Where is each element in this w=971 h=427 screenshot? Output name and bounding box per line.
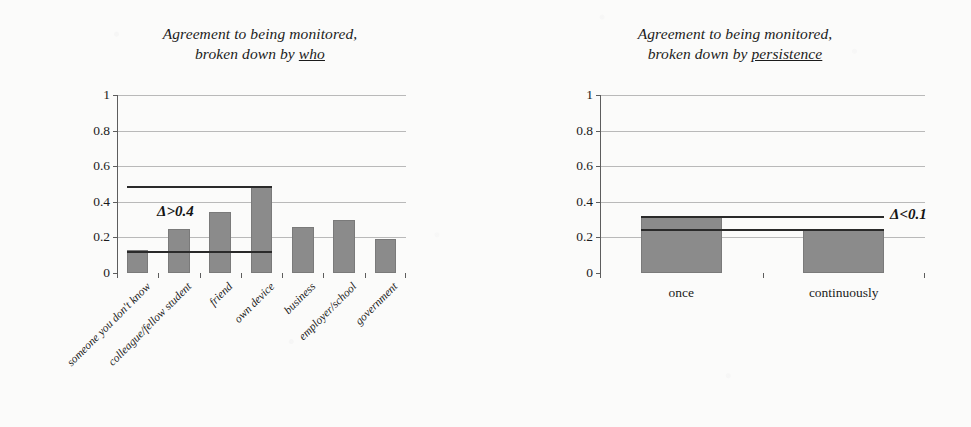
chart-title-persistence-line2-prefix: broken down by <box>648 45 752 62</box>
x-axis-category-label: continuously <box>809 285 879 301</box>
y-axis-who <box>117 95 118 274</box>
y-tick-label: 0.8 <box>576 123 593 139</box>
x-tick-mark <box>117 273 118 278</box>
bar <box>209 212 230 273</box>
y-tick-label: 0.6 <box>93 158 110 174</box>
chart-title-persistence: Agreement to being monitored, broken dow… <box>570 24 900 64</box>
delta-reference-line <box>127 251 272 253</box>
delta-reference-line <box>127 186 272 188</box>
bar <box>803 229 884 274</box>
chart-title-persistence-line2-emph: persistence <box>751 45 822 62</box>
x-axis-category-label: colleague/fellow student <box>106 280 194 368</box>
gridline <box>600 95 925 96</box>
x-axis-category-label: once <box>669 285 694 301</box>
bar <box>641 216 722 273</box>
x-axis-category-label: someone you don't know <box>64 280 152 368</box>
y-tick-label: 0.2 <box>576 229 593 245</box>
chart-title-who-line1: Agreement to being monitored, <box>163 25 358 42</box>
x-tick-mark <box>241 273 242 278</box>
x-tick-mark <box>323 273 324 278</box>
gridline <box>117 95 406 96</box>
x-tick-mark <box>763 273 764 278</box>
bar <box>333 220 354 273</box>
y-tick-mark <box>113 202 118 203</box>
x-tick-mark <box>405 273 406 278</box>
delta-annotation-label: Δ>0.4 <box>157 203 194 220</box>
delta-annotation-label: Δ<0.1 <box>890 206 927 223</box>
x-axis-category-label: business <box>281 280 317 316</box>
y-tick-label: 0.6 <box>576 158 593 174</box>
y-tick-label: 0.4 <box>93 194 110 210</box>
x-tick-mark <box>600 273 601 278</box>
gridline <box>600 202 925 203</box>
figure-two-bar-charts: Agreement to being monitored, broken dow… <box>0 0 971 427</box>
y-tick-label: 1 <box>586 87 593 103</box>
bar <box>251 186 272 273</box>
y-tick-mark <box>596 95 601 96</box>
y-tick-mark <box>596 202 601 203</box>
x-tick-mark <box>365 273 366 278</box>
x-axis-category-label: friend <box>207 280 235 308</box>
chart-title-who: Agreement to being monitored, broken dow… <box>110 24 410 64</box>
y-tick-mark <box>113 131 118 132</box>
y-tick-mark <box>113 237 118 238</box>
y-tick-label: 0 <box>103 265 110 281</box>
delta-reference-line <box>641 229 885 231</box>
y-tick-label: 1 <box>103 87 110 103</box>
gridline <box>600 166 925 167</box>
delta-reference-line <box>641 216 885 218</box>
y-tick-label: 0 <box>586 265 593 281</box>
y-tick-label: 0.8 <box>93 123 110 139</box>
x-axis-category-label: own device <box>231 280 276 325</box>
gridline <box>117 166 406 167</box>
y-tick-label: 0.4 <box>576 194 593 210</box>
bar <box>292 227 313 273</box>
chart-title-who-line2-prefix: broken down by <box>195 45 299 62</box>
y-tick-mark <box>596 166 601 167</box>
x-tick-mark <box>158 273 159 278</box>
x-axis-category-label: government <box>353 280 400 327</box>
y-tick-mark <box>113 166 118 167</box>
bar <box>375 239 396 273</box>
y-tick-mark <box>596 131 601 132</box>
plot-area-who: 00.20.40.60.81someone you don't knowcoll… <box>117 95 406 274</box>
x-tick-mark <box>282 273 283 278</box>
y-tick-mark <box>113 95 118 96</box>
x-tick-mark <box>924 273 925 278</box>
chart-panel-who: Agreement to being monitored, broken dow… <box>0 0 520 427</box>
chart-title-who-line2-emph: who <box>299 45 325 62</box>
plot-area-persistence: 00.20.40.60.81oncecontinuouslyΔ<0.1 <box>600 95 925 274</box>
gridline <box>117 131 406 132</box>
chart-panel-persistence: Agreement to being monitored, broken dow… <box>520 0 971 427</box>
gridline <box>600 131 925 132</box>
y-tick-label: 0.2 <box>93 229 110 245</box>
x-tick-mark <box>200 273 201 278</box>
y-tick-mark <box>596 237 601 238</box>
bar <box>127 250 148 273</box>
chart-title-persistence-line1: Agreement to being monitored, <box>638 25 833 42</box>
y-axis-persistence <box>600 95 601 274</box>
